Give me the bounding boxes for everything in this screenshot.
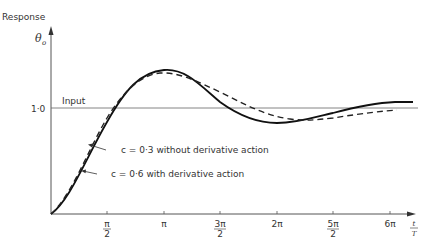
svg-text:π: π <box>104 219 110 229</box>
series-c06-curve <box>51 73 397 214</box>
svg-text:2: 2 <box>217 229 223 239</box>
y-axis-title: Response <box>2 12 46 22</box>
svg-text:6π: 6π <box>384 219 396 229</box>
svg-text:T: T <box>412 230 418 238</box>
svg-text:2: 2 <box>330 229 336 239</box>
theta-subscript: o <box>42 39 46 47</box>
series-c03-label: c = 0·3 without derivative action <box>121 145 269 155</box>
x-axis-arrow-icon <box>407 212 416 217</box>
input-label: Input <box>62 96 86 106</box>
svg-text:2π: 2π <box>271 219 283 229</box>
y-axis-arrow-icon <box>49 26 54 35</box>
series-c06-label: c = 0·6 with derivative action <box>111 169 244 179</box>
svg-text:π: π <box>161 219 167 229</box>
response-chart: Response θ o Input 1·0 c = 0·3 without d… <box>0 0 427 249</box>
theta-symbol: θ <box>35 32 42 45</box>
svg-text:3π: 3π <box>214 219 226 229</box>
series-c03-curve <box>51 70 413 214</box>
svg-text:t: t <box>413 220 416 228</box>
svg-text:2: 2 <box>104 229 110 239</box>
arrow-head-icon <box>88 144 93 148</box>
svg-text:5π: 5π <box>327 219 339 229</box>
x-tick-labels: π 2 π 3π 2 2π 5π 2 6π t T <box>103 219 418 239</box>
y-tick-1: 1·0 <box>31 104 46 114</box>
